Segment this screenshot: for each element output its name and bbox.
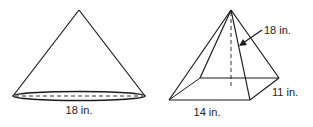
pyramid-width-label: 11 in. xyxy=(272,86,298,98)
pyramid-height-label: 18 in. xyxy=(264,24,291,36)
cone-base-back xyxy=(13,92,145,97)
cone-diameter-label: 18 in. xyxy=(66,104,93,116)
pyramid-base-front xyxy=(169,78,279,100)
pyramid-figure xyxy=(169,10,279,100)
pyramid-edge-back-left xyxy=(200,10,231,78)
arrow-head-icon xyxy=(239,39,247,46)
cone-left-edge xyxy=(13,10,79,96)
cone-figure xyxy=(13,10,145,101)
pyramid-edge-front-left xyxy=(169,10,231,100)
pyramid-base-back xyxy=(169,78,279,100)
cone-base-front xyxy=(13,96,145,101)
cone-right-edge xyxy=(79,10,145,96)
geometry-diagram: 18 in. 18 in. 11 in. 14 in. xyxy=(0,0,313,127)
pyramid-length-label: 14 in. xyxy=(194,106,221,118)
